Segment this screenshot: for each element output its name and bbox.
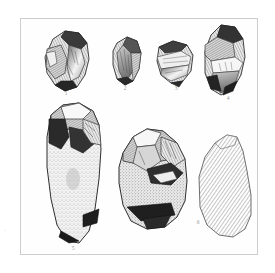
plate-illustration — [21, 19, 257, 254]
running-head: ——— ———— —— ———— — [2, 0, 152, 3]
figure-middle-artifact — [119, 129, 187, 229]
figure-2-label: 2 — [120, 85, 130, 91]
figure-4-label: 4 — [223, 95, 233, 101]
figure-1-artifact — [45, 31, 89, 91]
figure-6-artifact — [199, 135, 251, 237]
figure-5-artifact — [47, 103, 101, 243]
figure-1-label: 1 — [61, 90, 71, 96]
plate-frame: 1 2 3 4 5 6 — [20, 18, 258, 255]
figure-6-label: 6 — [193, 219, 203, 225]
figure-4-artifact — [205, 25, 245, 95]
figure-3-label: 3 — [171, 85, 181, 91]
figure-5-label: 5 — [68, 245, 78, 251]
figure-2-artifact — [113, 37, 141, 85]
margin-mark: · — [4, 228, 9, 235]
figure-3-artifact — [157, 41, 193, 87]
plate-inner: 1 2 3 4 5 6 — [21, 19, 257, 254]
page-root: ——— ———— —— ———— — [0, 0, 275, 273]
